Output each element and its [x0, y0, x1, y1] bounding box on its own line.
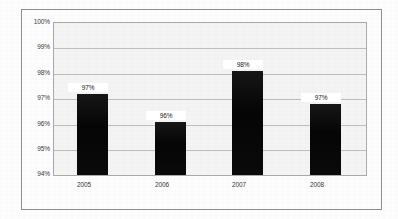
y-tick-label-99: 99% — [37, 43, 50, 51]
bar-2005 — [77, 94, 108, 175]
y-axis: 100% 99% 98% 97% 96% 95% 94% — [20, 0, 50, 219]
x-tick-label-2005: 2005 — [56, 180, 112, 189]
bar-2006 — [155, 122, 186, 175]
gridline-99 — [54, 48, 366, 49]
gridline-98 — [54, 74, 366, 75]
bar-label-2008: 97% — [301, 93, 341, 102]
x-tick-label-2007: 2007 — [211, 180, 267, 189]
bar-label-2007: 98% — [223, 60, 263, 69]
bar-2008 — [310, 104, 341, 175]
x-tick-label-2006: 2006 — [134, 180, 190, 189]
bar-2007 — [232, 71, 263, 175]
bar-label-2005: 97% — [68, 83, 108, 92]
y-tick-label-100: 100% — [34, 18, 50, 26]
x-tick-label-2008: 2008 — [289, 180, 345, 189]
bar-label-2006: 96% — [146, 111, 186, 120]
y-tick-label-94: 94% — [37, 170, 50, 178]
y-tick-label-95: 95% — [37, 145, 50, 153]
y-tick-label-96: 96% — [37, 120, 50, 128]
y-tick-label-97: 97% — [37, 94, 50, 102]
y-tick-label-98: 98% — [37, 69, 50, 77]
